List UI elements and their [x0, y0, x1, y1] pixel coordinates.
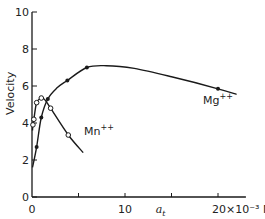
- data-point-mn: [31, 123, 36, 128]
- data-point-mn: [66, 133, 71, 138]
- data-point-mg: [65, 78, 69, 82]
- y-tick-label: 6: [22, 80, 29, 93]
- y-tick-label: 2: [22, 154, 29, 167]
- y-tick-label: 8: [22, 43, 29, 56]
- series-labels: Mg++Mn++: [84, 92, 233, 138]
- x-tick-label: 10: [118, 203, 132, 216]
- data-point-mg: [46, 97, 50, 101]
- y-tick-label: 10: [15, 6, 29, 19]
- data-point-mg: [216, 87, 220, 91]
- x-tick-label: 0: [29, 203, 36, 216]
- velocity-chart: 024681001020×10⁻³ MatVelocity Mg++Mn++: [0, 0, 265, 219]
- series-label-mn: Mn++: [84, 123, 114, 138]
- curve-mg: [33, 66, 237, 168]
- data-point-mg: [39, 115, 43, 119]
- data-point-mg: [35, 145, 39, 149]
- data-point-mg: [85, 66, 89, 70]
- series-markers: [31, 66, 220, 150]
- y-tick-label: 4: [22, 117, 29, 130]
- y-axis-title: Velocity: [4, 71, 17, 115]
- series-label-mg: Mg++: [203, 92, 233, 107]
- x-tick-label: 20×10⁻³ M: [212, 203, 265, 216]
- data-point-mn: [34, 100, 39, 105]
- data-point-mn: [39, 96, 44, 101]
- x-axis-title: at: [156, 203, 167, 218]
- data-point-mn: [48, 106, 53, 111]
- data-point-mn: [32, 117, 37, 122]
- series-curves: [33, 66, 237, 168]
